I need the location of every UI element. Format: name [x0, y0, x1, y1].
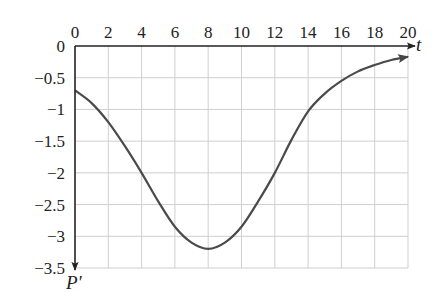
y-tick-label: 0	[57, 37, 66, 56]
y-tick-label: −3	[47, 227, 65, 246]
y-axis-label: P'	[65, 272, 83, 293]
y-tick-label: −0.5	[34, 69, 65, 88]
x-tick-label: 6	[171, 23, 180, 42]
x-tick-labels: 02468101214161820	[71, 23, 417, 42]
x-tick-label: 16	[333, 23, 350, 42]
y-tick-label: −1.5	[34, 132, 65, 151]
x-tick-label: 2	[104, 23, 113, 42]
x-tick-label: 10	[233, 23, 250, 42]
x-axis-label: t	[416, 34, 422, 55]
x-tick-label: 12	[266, 23, 283, 42]
y-tick-label: −2	[47, 164, 65, 183]
x-tick-label: 14	[300, 23, 318, 42]
y-tick-label: −2.5	[34, 196, 65, 215]
x-tick-label: 8	[204, 23, 213, 42]
x-tick-label: 20	[400, 23, 417, 42]
x-tick-label: 4	[137, 23, 146, 42]
x-tick-label: 0	[71, 23, 80, 42]
y-tick-label: −1	[47, 100, 65, 119]
y-tick-labels: 0−0.5−1−1.5−2−2.5−3−3.5	[34, 37, 65, 278]
chart: 02468101214161820 0−0.5−1−1.5−2−2.5−3−3.…	[0, 0, 437, 303]
grid	[75, 46, 408, 268]
x-tick-label: 18	[366, 23, 383, 42]
y-tick-label: −3.5	[34, 259, 65, 278]
